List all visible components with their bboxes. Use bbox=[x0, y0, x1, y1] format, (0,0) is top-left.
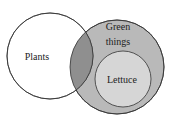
green-things-label-line2: things bbox=[106, 36, 131, 47]
plants-label: Plants bbox=[25, 51, 50, 62]
venn-diagram: Plants Green things Lettuce bbox=[0, 0, 171, 122]
lettuce-label: Lettuce bbox=[107, 74, 138, 85]
green-things-label-line1: Green bbox=[106, 21, 130, 32]
